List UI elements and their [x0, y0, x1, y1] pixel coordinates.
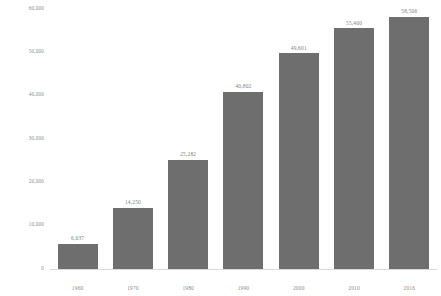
bar-rect[interactable] [58, 244, 98, 270]
x-tick: 1980 [161, 276, 216, 294]
x-tick-label: 2016 [404, 285, 416, 291]
y-tick-label: 60,000 [29, 5, 44, 11]
y-tick-label: 10,000 [29, 221, 44, 227]
bar-rect[interactable] [223, 92, 263, 270]
bar-value-label: 49,601 [291, 45, 307, 51]
x-axis: 1960 1970 1980 1990 2000 2010 2016 [50, 276, 437, 290]
x-tick: 1970 [105, 276, 160, 294]
x-tick: 1990 [216, 276, 271, 294]
x-tick-label: 1980 [182, 285, 194, 291]
bar-value-label: 58,506 [401, 8, 417, 14]
bar-item[interactable]: 6,037 [50, 8, 105, 270]
plot-area: 6,037 14,250 25,282 40,802 49,601 55,400 [50, 8, 437, 270]
bar-rect[interactable] [168, 160, 208, 270]
y-tick-label: 40,000 [29, 91, 44, 97]
x-tick-label: 1990 [238, 285, 250, 291]
x-tick: 2010 [326, 276, 381, 294]
bar-value-label: 25,282 [180, 151, 196, 157]
y-tick-label: 50,000 [29, 48, 44, 54]
x-tick-label: 1960 [72, 285, 84, 291]
bar-item[interactable]: 40,802 [216, 8, 271, 270]
x-tick-label: 2010 [348, 285, 360, 291]
x-axis-line [50, 269, 437, 270]
bar-series: 6,037 14,250 25,282 40,802 49,601 55,400 [50, 8, 437, 270]
bar-value-label: 6,037 [71, 235, 84, 241]
y-tick-label: 0 [41, 265, 44, 271]
bar-rect[interactable] [389, 17, 429, 271]
bar-value-label: 55,400 [346, 20, 362, 26]
bar-value-label: 40,802 [235, 83, 251, 89]
bar-rect[interactable] [113, 208, 153, 270]
bar-item[interactable]: 25,282 [161, 8, 216, 270]
y-tick-label: 20,000 [29, 178, 44, 184]
bar-value-label: 14,250 [125, 199, 141, 205]
x-tick-label: 1970 [127, 285, 139, 291]
bar-item[interactable]: 49,601 [271, 8, 326, 270]
bar-item[interactable]: 55,400 [326, 8, 381, 270]
x-tick: 1960 [50, 276, 105, 294]
y-axis: 60,000 50,000 40,000 30,000 20,000 10,00… [0, 0, 50, 296]
bar-rect[interactable] [279, 53, 319, 270]
x-tick-label: 2000 [293, 285, 305, 291]
bar-chart: 60,000 50,000 40,000 30,000 20,000 10,00… [0, 0, 441, 296]
x-tick: 2000 [271, 276, 326, 294]
bar-item[interactable]: 58,506 [382, 8, 437, 270]
bar-rect[interactable] [334, 28, 374, 270]
x-tick: 2016 [382, 276, 437, 294]
bar-item[interactable]: 14,250 [105, 8, 160, 270]
y-tick-label: 30,000 [29, 135, 44, 141]
